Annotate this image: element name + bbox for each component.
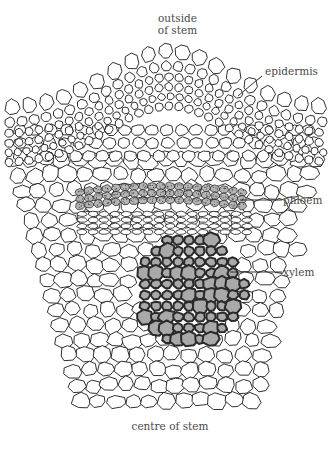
outside-label-line2: of stem <box>140 24 215 36</box>
outside-of-stem-label: outside of stem <box>140 12 215 36</box>
outside-label-line1: outside <box>140 12 215 24</box>
xylem-label: xylem <box>283 266 314 278</box>
phloem-label: phloem <box>283 194 322 206</box>
epidermis-label: epidermis <box>265 65 318 77</box>
centre-of-stem-label: centre of stem <box>110 420 230 432</box>
